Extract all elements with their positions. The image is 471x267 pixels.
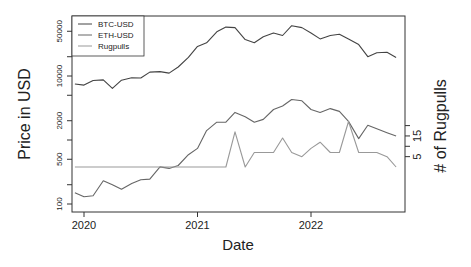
right-tick-label: 15 bbox=[411, 130, 423, 142]
legend-label-rugpulls: Rugpulls bbox=[98, 42, 129, 51]
left-tick-label: 100 bbox=[55, 197, 64, 211]
right-y-axis: 515 bbox=[405, 126, 423, 160]
left-tick-label: 2000 bbox=[55, 111, 64, 129]
series-line-eth-usd bbox=[75, 100, 396, 197]
chart-canvas: 10050020001000050000 515 202020212022 Pr… bbox=[0, 0, 471, 267]
x-tick-label: 2020 bbox=[72, 219, 96, 231]
left-tick-label: 10000 bbox=[55, 64, 64, 87]
x-tick-label: 2021 bbox=[185, 219, 209, 231]
x-axis-label: Date bbox=[222, 236, 254, 253]
series-line-rugpulls bbox=[75, 122, 396, 168]
left-tick-label: 500 bbox=[55, 152, 64, 166]
right-y-axis-label: # of Rugpulls bbox=[432, 79, 449, 172]
x-tick-label: 2022 bbox=[299, 219, 323, 231]
right-tick-label: 5 bbox=[411, 154, 423, 160]
left-tick-label: 50000 bbox=[55, 20, 64, 43]
legend: BTC-USD ETH-USD Rugpulls bbox=[72, 16, 144, 56]
legend-label-btc: BTC-USD bbox=[98, 20, 134, 29]
left-y-axis: 10050020001000050000 bbox=[55, 20, 72, 211]
x-axis: 202020212022 bbox=[72, 212, 323, 231]
legend-label-eth: ETH-USD bbox=[98, 31, 134, 40]
y-axis-label: Price in USD bbox=[16, 68, 33, 160]
